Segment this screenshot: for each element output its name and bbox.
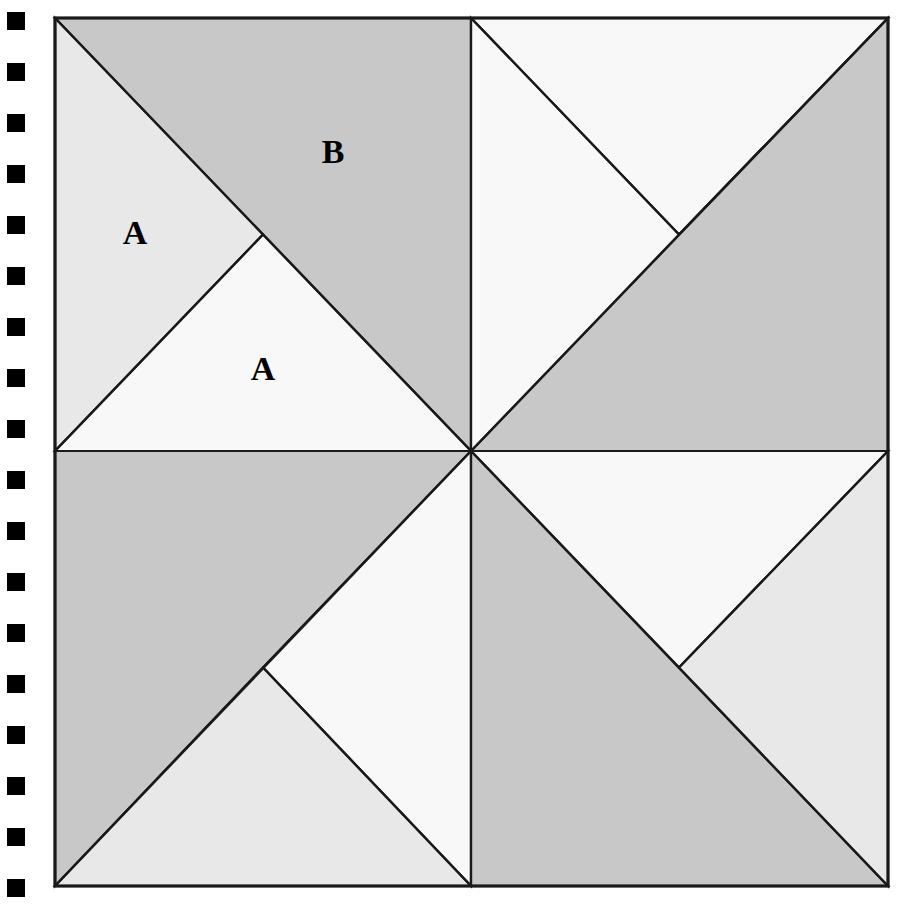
region-label-a-0: A: [123, 214, 148, 251]
region-label-b-1: B: [322, 133, 345, 170]
region-label-a-2: A: [251, 350, 276, 387]
divider-lines-layer: [55, 18, 888, 886]
figure-page: ABA: [0, 0, 905, 906]
dissection-figure: ABA: [0, 0, 905, 906]
